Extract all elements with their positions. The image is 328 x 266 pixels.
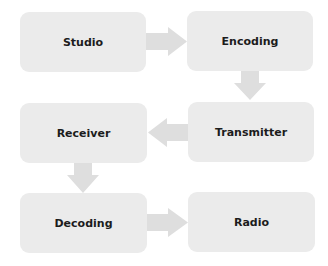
node-label: Encoding [222,35,279,48]
node-receiver: Receiver [20,103,147,163]
arrow-down-icon [234,70,266,100]
node-label: Radio [234,216,269,229]
node-label: Transmitter [215,126,287,139]
node-transmitter: Transmitter [188,102,314,162]
node-label: Studio [63,36,103,49]
node-radio: Radio [188,192,315,252]
arrow-right-icon [146,27,187,56]
node-studio: Studio [20,12,146,72]
arrow-down-icon [67,162,99,193]
node-decoding: Decoding [20,193,147,253]
node-label: Decoding [54,217,112,230]
arrow-right-icon [146,208,188,237]
node-label: Receiver [57,127,111,140]
node-encoding: Encoding [187,11,313,71]
arrow-left-icon [148,118,188,147]
